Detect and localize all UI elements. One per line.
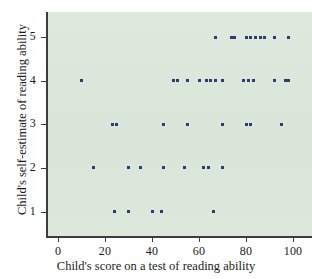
- panel-background: [47, 12, 312, 237]
- data-point: [151, 210, 154, 213]
- y-tick-1: [41, 212, 46, 213]
- data-point: [252, 79, 255, 82]
- data-point: [221, 166, 224, 169]
- data-point: [245, 123, 248, 126]
- x-tick-20: [105, 237, 106, 242]
- data-point: [287, 79, 290, 82]
- data-point: [212, 210, 215, 213]
- data-point: [221, 79, 224, 82]
- data-point: [273, 36, 276, 39]
- plot-panel: [47, 12, 312, 237]
- data-point: [259, 36, 262, 39]
- data-point: [198, 79, 201, 82]
- data-point: [186, 123, 189, 126]
- data-point: [209, 79, 212, 82]
- y-axis-label: Child's self-estimate of reading ability: [15, 5, 30, 235]
- x-tick-80: [246, 237, 247, 242]
- data-point: [160, 210, 163, 213]
- x-tick-label-100: 100: [276, 244, 310, 259]
- data-point: [214, 79, 217, 82]
- y-tick-2: [41, 168, 46, 169]
- data-point: [287, 36, 290, 39]
- data-point: [186, 79, 189, 82]
- data-point: [245, 36, 248, 39]
- scatter-plot-figure: 020406080100 12345 Child's score on a te…: [0, 0, 312, 279]
- data-point: [247, 79, 250, 82]
- data-point: [162, 166, 165, 169]
- data-point: [139, 166, 142, 169]
- x-tick-100: [293, 237, 294, 242]
- data-point: [80, 79, 83, 82]
- data-point: [254, 36, 257, 39]
- x-axis-label: Child's score on a test of reading abili…: [0, 259, 312, 274]
- x-tick-label-20: 20: [88, 244, 122, 259]
- data-point: [249, 123, 252, 126]
- y-tick-3: [41, 124, 46, 125]
- data-point: [127, 166, 130, 169]
- x-axis-line: [46, 236, 312, 238]
- x-tick-label-40: 40: [135, 244, 169, 259]
- data-point: [202, 166, 205, 169]
- data-point: [233, 36, 236, 39]
- data-point: [214, 36, 217, 39]
- data-point: [207, 166, 210, 169]
- data-point: [249, 36, 252, 39]
- data-point: [221, 123, 224, 126]
- data-point: [242, 79, 245, 82]
- data-point: [273, 79, 276, 82]
- data-point: [205, 79, 208, 82]
- data-point: [92, 166, 95, 169]
- x-tick-label-60: 60: [182, 244, 216, 259]
- x-tick-label-0: 0: [41, 244, 75, 259]
- data-point: [113, 210, 116, 213]
- x-tick-label-80: 80: [229, 244, 263, 259]
- data-point: [127, 210, 130, 213]
- data-point: [115, 123, 118, 126]
- y-tick-4: [41, 81, 46, 82]
- x-tick-60: [199, 237, 200, 242]
- data-point: [172, 79, 175, 82]
- y-tick-5: [41, 37, 46, 38]
- data-point: [183, 166, 186, 169]
- data-point: [176, 79, 179, 82]
- x-tick-40: [152, 237, 153, 242]
- data-point: [111, 123, 114, 126]
- data-point: [280, 123, 283, 126]
- y-axis-line: [46, 12, 48, 238]
- x-tick-0: [58, 237, 59, 242]
- data-point: [263, 36, 266, 39]
- data-point: [162, 123, 165, 126]
